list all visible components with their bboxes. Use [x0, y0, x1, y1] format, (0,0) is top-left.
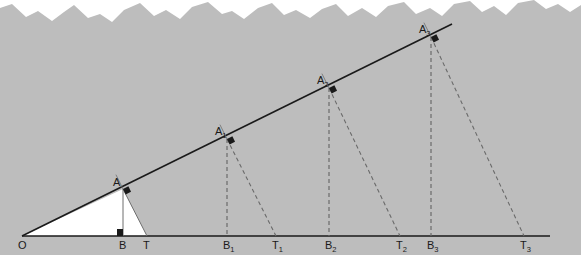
label-O: O — [18, 239, 27, 251]
similar-triangles-diagram: AA1A2A3OBB1B2B3TT1T2T3 — [0, 0, 581, 255]
right-angle-marker-B — [117, 229, 123, 236]
label-A: A — [113, 176, 121, 188]
diagram-canvas: AA1A2A3OBB1B2B3TT1T2T3 — [0, 0, 581, 255]
label-T: T — [143, 239, 150, 251]
label-B: B — [119, 239, 126, 251]
